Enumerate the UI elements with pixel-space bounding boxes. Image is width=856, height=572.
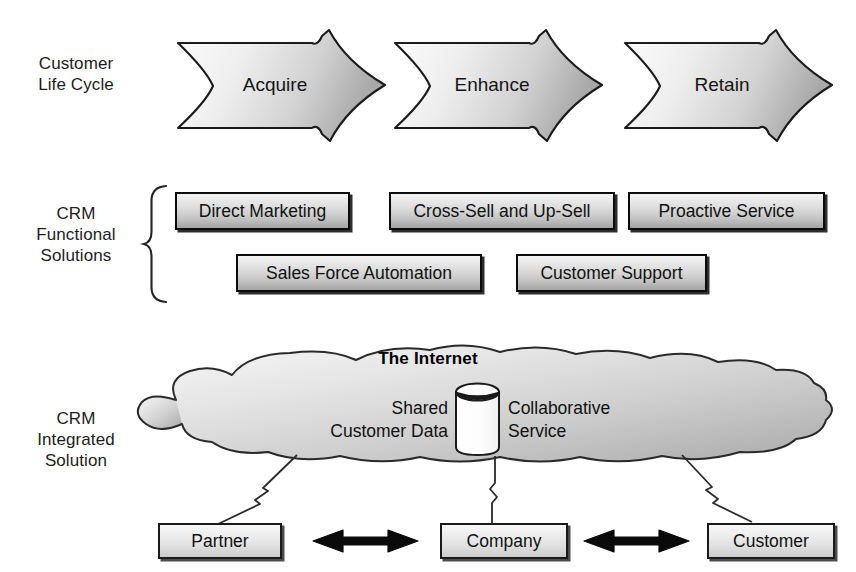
row-label-customer-life-cycle: Customer Life Cycle bbox=[6, 53, 146, 95]
cloud-label-shared-customer-data: Shared Customer Data bbox=[380, 397, 448, 420]
curly-brace-icon bbox=[144, 186, 166, 302]
database-cylinder-icon bbox=[456, 384, 499, 456]
actor-box-partner[interactable]: Partner bbox=[158, 523, 282, 559]
internet-title: The Internet bbox=[0, 349, 856, 369]
double-arrow-company-customer bbox=[584, 530, 689, 552]
functional-solution-box-cross-sell-and-up-sell[interactable]: Cross-Sell and Up-Sell bbox=[389, 192, 615, 230]
row-label-line: Solutions bbox=[6, 245, 146, 266]
row-label-line: Integrated bbox=[6, 429, 146, 450]
functional-solution-label: Proactive Service bbox=[658, 201, 794, 222]
functional-solution-label: Sales Force Automation bbox=[266, 263, 452, 284]
cloud-label-line: Collaborative bbox=[508, 397, 610, 420]
actor-label: Company bbox=[467, 531, 542, 552]
functional-solution-label: Cross-Sell and Up-Sell bbox=[413, 201, 590, 222]
row-label-crm-functional-solutions: CRM Functional Solutions bbox=[6, 203, 146, 266]
row-label-line: Functional bbox=[6, 224, 146, 245]
functional-solution-box-sales-force-automation[interactable]: Sales Force Automation bbox=[236, 254, 482, 292]
row-label-line: Life Cycle bbox=[6, 74, 146, 95]
cloud-label-line: Shared bbox=[380, 397, 448, 420]
crm-diagram: Customer Life Cycle CRM Functional Solut… bbox=[0, 0, 856, 572]
actor-label: Partner bbox=[191, 531, 248, 552]
functional-solution-box-proactive-service[interactable]: Proactive Service bbox=[628, 192, 825, 230]
actor-label: Customer bbox=[733, 531, 809, 552]
lifecycle-stage-label-enhance: Enhance bbox=[432, 74, 552, 96]
actor-box-company[interactable]: Company bbox=[440, 523, 568, 559]
cloud-label-line: Service bbox=[508, 420, 610, 443]
row-label-line: Customer bbox=[6, 53, 146, 74]
row-label-line: CRM bbox=[6, 408, 146, 429]
connector-partner-to-cloud bbox=[216, 455, 297, 525]
double-arrow-partner-company bbox=[313, 530, 418, 552]
functional-solution-label: Direct Marketing bbox=[199, 201, 326, 222]
connector-customer-to-cloud bbox=[682, 455, 752, 522]
row-label-line: Solution bbox=[6, 450, 146, 471]
lifecycle-stage-label-retain: Retain bbox=[662, 74, 782, 96]
connector-company-to-cloud bbox=[490, 456, 497, 525]
cloud-label-line: Customer Data bbox=[308, 420, 448, 443]
functional-solution-box-direct-marketing[interactable]: Direct Marketing bbox=[175, 192, 350, 230]
actor-box-customer[interactable]: Customer bbox=[707, 523, 835, 559]
functional-solution-box-customer-support[interactable]: Customer Support bbox=[516, 254, 707, 292]
functional-solution-label: Customer Support bbox=[540, 263, 682, 284]
lifecycle-stage-label-acquire: Acquire bbox=[215, 74, 335, 96]
row-label-crm-integrated-solution: CRM Integrated Solution bbox=[6, 408, 146, 471]
row-label-line: CRM bbox=[6, 203, 146, 224]
cloud-label-collaborative-service: Collaborative Service bbox=[508, 397, 610, 443]
